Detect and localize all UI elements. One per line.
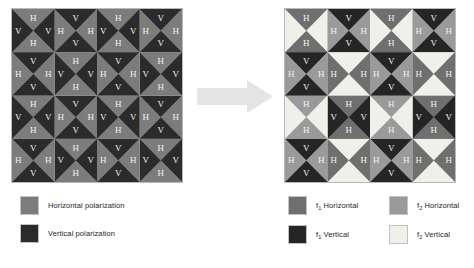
grid-cell: VHVH <box>370 139 413 182</box>
legend-swatch <box>389 225 408 244</box>
legend-item: f2 Vertical <box>389 225 450 244</box>
grid-cell: HVHV <box>140 139 183 182</box>
grid-cell: VHVH <box>12 139 55 182</box>
legend-label: f1 Horizontal <box>316 201 358 210</box>
legend-item: Horizontal polarization <box>20 196 125 215</box>
grid-cell: HVHV <box>97 9 140 52</box>
legend-swatch <box>288 196 307 215</box>
grid-cell: HVHV <box>55 52 98 95</box>
grid-cell: VHVH <box>328 52 371 95</box>
grid-cell: VHVH <box>140 96 183 139</box>
legend-swatch <box>288 225 307 244</box>
grid-cell: VHVH <box>55 96 98 139</box>
legend-item: f1 Vertical <box>288 225 389 244</box>
grid-cell: HVHV <box>285 96 328 139</box>
legend-item: f2 Horizontal <box>389 196 459 215</box>
legend-row: Horizontal polarization <box>20 196 125 215</box>
right-arrow-icon <box>197 79 273 114</box>
grid-cell: VHVH <box>328 139 371 182</box>
legend-swatch <box>20 224 39 243</box>
legend-item: Vertical polarization <box>20 224 115 243</box>
legend-label: Vertical polarization <box>48 229 115 238</box>
grid-cell: HVHV <box>12 96 55 139</box>
grid-cell: VHVH <box>285 139 328 182</box>
grid-cell: HVHV <box>328 96 371 139</box>
frequency-polarization-legend: f1 Horizontalf2 Horizontalf1 Verticalf2 … <box>288 196 459 254</box>
grid-cell: HVHV <box>285 9 328 52</box>
legend-swatch <box>389 196 408 215</box>
grid-cell: HVHV <box>12 9 55 52</box>
legend-swatch <box>20 196 39 215</box>
grid-cell: VHVH <box>285 52 328 95</box>
grid-cell: HVHV <box>370 9 413 52</box>
grid-cell: VHVH <box>413 9 456 52</box>
grid-cell: HVHV <box>55 139 98 182</box>
figure-root: HVHVVHVHHVHVVHVHVHVHHVHVVHVHHVHVHVHVVHVH… <box>0 0 474 268</box>
grid-cell: HVHV <box>413 96 456 139</box>
legend-label: f1 Vertical <box>316 230 349 239</box>
grid-cell: VHVH <box>413 52 456 95</box>
legend-row: f1 Horizontalf2 Horizontal <box>288 196 459 215</box>
grid-cell: VHVH <box>97 139 140 182</box>
grid-cell: VHVH <box>328 9 371 52</box>
grid-cell: VHVH <box>97 52 140 95</box>
legend-label: Horizontal polarization <box>48 201 125 210</box>
frequency-polarization-grid: HVHVVHVHHVHVVHVHVHVHVHVHVHVHVHVHHVHVHVHV… <box>284 8 456 183</box>
polarization-legend: Horizontal polarizationVertical polariza… <box>20 196 125 252</box>
grid-cell: HVHV <box>140 52 183 95</box>
grid-cell: VHVH <box>413 139 456 182</box>
polarization-grid: HVHVVHVHHVHVVHVHVHVHHVHVVHVHHVHVHVHVVHVH… <box>11 8 183 183</box>
legend-item: f1 Horizontal <box>288 196 389 215</box>
grid-cell: VHVH <box>55 9 98 52</box>
legend-label: f2 Vertical <box>417 230 450 239</box>
grid-cell: VHVH <box>140 9 183 52</box>
grid-cell: VHVH <box>370 52 413 95</box>
grid-cell: HVHV <box>97 96 140 139</box>
grid-cell: HVHV <box>370 96 413 139</box>
legend-label: f2 Horizontal <box>417 201 459 210</box>
grid-cell: VHVH <box>12 52 55 95</box>
legend-row: Vertical polarization <box>20 224 125 243</box>
legend-row: f1 Verticalf2 Vertical <box>288 225 459 244</box>
